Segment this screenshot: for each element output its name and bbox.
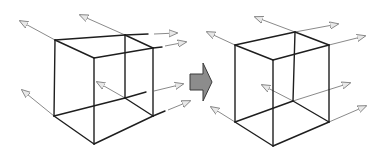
edge <box>125 34 148 35</box>
cube-before-rays <box>20 15 190 116</box>
ray <box>295 24 338 32</box>
edge <box>273 122 329 146</box>
edge <box>235 32 295 45</box>
ray <box>262 85 293 101</box>
edge <box>94 48 153 58</box>
cube-after-rays <box>207 17 366 122</box>
edge <box>235 101 293 122</box>
edge <box>235 122 273 146</box>
ray <box>293 83 350 101</box>
edge <box>235 45 273 60</box>
ray <box>20 21 55 40</box>
ray <box>154 84 183 91</box>
edge <box>295 32 329 45</box>
ray <box>207 32 235 45</box>
ray <box>165 42 186 46</box>
ray <box>329 36 365 45</box>
edge <box>125 98 153 116</box>
right-arrow-icon <box>190 63 212 101</box>
ray <box>80 15 125 35</box>
cube-after <box>207 17 366 146</box>
cube-after-edges <box>235 32 329 146</box>
ray <box>22 90 54 116</box>
ray <box>97 82 125 98</box>
cube-before <box>20 15 190 144</box>
edge <box>293 101 329 122</box>
edge <box>54 116 94 144</box>
ray <box>329 106 366 122</box>
ray <box>255 17 295 32</box>
edge <box>125 92 146 98</box>
ray <box>154 33 177 34</box>
edge <box>54 40 55 116</box>
edge <box>55 35 125 40</box>
edge <box>153 111 165 116</box>
edge <box>94 116 153 144</box>
edge <box>54 98 125 116</box>
ray <box>211 107 235 122</box>
diagram-canvas <box>0 0 381 160</box>
edge <box>125 35 153 48</box>
edge <box>273 45 329 60</box>
edge <box>55 40 94 58</box>
edge <box>293 32 295 101</box>
edge <box>153 47 162 48</box>
ray <box>168 101 190 110</box>
